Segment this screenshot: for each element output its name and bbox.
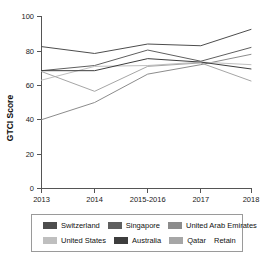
y-tick-label-40: 40 [26,115,34,124]
legend-row-1: Switzerland Singapore United Arab Emirat… [37,218,238,233]
series-group [42,29,252,119]
chart-page: GTCI Score 100 80 60 40 20 0 [0,0,275,266]
y-tick-label-0: 0 [30,184,34,193]
legend-item-singapore[interactable]: Singapore [108,222,160,230]
legend-row-2: United States Australia Qatar Retain [37,233,238,248]
y-tick-label-20: 20 [26,150,34,159]
legend-item-united-states[interactable]: United States [43,237,106,245]
legend-label-united-states: United States [61,237,106,245]
legend-label-switzerland: Switzerland [61,222,100,230]
series-line-switzerland [42,29,252,53]
y-tick-label-100: 100 [21,12,34,21]
x-tick-group: 2013 2014 2015-2016 2017 2018 [33,189,259,205]
legend-item-united-arab-emirates[interactable]: United Arab Emirates [168,222,257,230]
legend-swatch-singapore [108,222,122,229]
x-tick-label-2017: 2017 [192,195,209,204]
x-tick-label-2018: 2018 [243,195,260,204]
y-tick-label-80: 80 [26,47,34,56]
y-axis-title: GTCI Score [5,95,15,142]
legend-label-united-arab-emirates: United Arab Emirates [186,222,257,230]
legend-swatch-united-states [43,237,57,244]
legend-item-switzerland[interactable]: Switzerland [43,222,100,230]
legend-label-qatar: Qatar [187,237,206,245]
legend-item-australia[interactable]: Australia [114,237,161,245]
legend-label-singapore: Singapore [126,222,160,230]
x-tick-label-2015-2016: 2015-2016 [130,195,166,204]
legend-swatch-switzerland [43,222,57,229]
y-tick-label-60: 60 [26,81,34,90]
series-line-united-arab-emirates [42,54,252,119]
legend-label-australia: Australia [132,237,161,245]
y-tick-group: 100 80 60 40 20 0 [21,12,41,193]
plot-area: GTCI Score 100 80 60 40 20 0 [0,0,275,212]
x-tick-label-2014: 2014 [86,195,103,204]
legend-swatch-australia [114,237,128,244]
legend-item-retain[interactable]: Retain [214,237,236,245]
legend-item-qatar[interactable]: Qatar [169,237,206,245]
legend-label-retain: Retain [214,237,236,245]
x-tick-label-2013: 2013 [33,195,50,204]
legend-swatch-united-arab-emirates [168,222,182,229]
legend-swatch-qatar [169,237,183,244]
chart-legend: Switzerland Singapore United Arab Emirat… [31,214,243,252]
line-chart-figure: GTCI Score 100 80 60 40 20 0 [0,0,275,212]
